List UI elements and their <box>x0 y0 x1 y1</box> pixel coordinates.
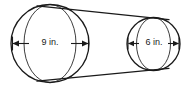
arrowhead-left-start <box>13 41 20 47</box>
dimension-label-left: 9 in. <box>29 38 71 47</box>
tangent-line-top <box>37 6 169 20</box>
tangent-line-bottom <box>37 68 169 81</box>
arrowhead-right-start <box>128 41 134 46</box>
arrowhead-right-end <box>173 41 179 46</box>
arrowhead-left-end <box>82 41 89 47</box>
dimension-label-right: 6 in. <box>139 38 169 47</box>
geometry-figure: 9 in. 6 in. <box>0 0 193 87</box>
